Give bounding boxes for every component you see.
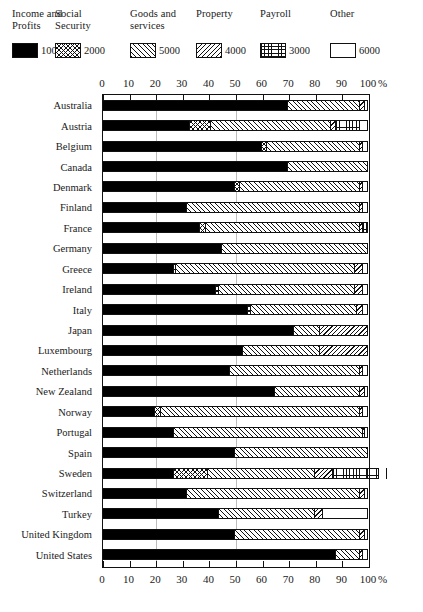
bar-row[interactable]	[102, 263, 368, 274]
bar-segment-property[interactable]	[320, 325, 368, 336]
bar-row[interactable]	[102, 468, 368, 479]
bar-segment-goods[interactable]	[174, 427, 363, 438]
bar-segment-goods[interactable]	[336, 549, 360, 560]
bar-segment-goods[interactable]	[206, 222, 360, 233]
bar-segment-income[interactable]	[102, 202, 187, 213]
bar-segment-income[interactable]	[102, 141, 262, 152]
bar-segment-goods[interactable]	[161, 406, 361, 417]
legend-entry-social[interactable]: 2000	[55, 43, 105, 58]
bar-segment-income[interactable]	[102, 427, 174, 438]
bar-segment-other[interactable]	[363, 181, 368, 192]
bar-segment-goods[interactable]	[230, 365, 360, 376]
bar-row[interactable]	[102, 345, 368, 356]
bar-row[interactable]	[102, 222, 368, 233]
bar-segment-goods[interactable]	[208, 468, 314, 479]
bar-segment-income[interactable]	[102, 325, 294, 336]
bar-segment-property[interactable]	[355, 284, 363, 295]
bar-segment-goods[interactable]	[235, 447, 368, 458]
bar-segment-income[interactable]	[102, 468, 174, 479]
bar-row[interactable]	[102, 284, 368, 295]
bar-row[interactable]	[102, 529, 368, 540]
bar-segment-other[interactable]	[379, 468, 387, 479]
bar-segment-income[interactable]	[102, 222, 200, 233]
bar-segment-other[interactable]	[363, 263, 368, 274]
bar-row[interactable]	[102, 141, 368, 152]
bar-segment-other[interactable]	[365, 427, 368, 438]
bar-segment-goods[interactable]	[288, 100, 360, 111]
bar-segment-goods[interactable]	[211, 120, 331, 131]
bar-row[interactable]	[102, 202, 368, 213]
bar-row[interactable]	[102, 386, 368, 397]
bar-segment-other[interactable]	[365, 488, 368, 499]
bar-segment-other[interactable]	[360, 120, 368, 131]
bar-row[interactable]	[102, 161, 368, 172]
bar-segment-property[interactable]	[355, 263, 363, 274]
bar-row[interactable]	[102, 427, 368, 438]
bar-segment-social[interactable]	[174, 468, 209, 479]
bar-segment-other[interactable]	[363, 202, 368, 213]
bar-segment-other[interactable]	[363, 365, 368, 376]
bar-segment-income[interactable]	[102, 529, 235, 540]
bar-segment-goods[interactable]	[219, 284, 355, 295]
bar-segment-goods[interactable]	[187, 202, 360, 213]
bar-segment-property[interactable]	[320, 345, 368, 356]
bar-segment-income[interactable]	[102, 386, 275, 397]
legend-entry-property[interactable]: 4000	[196, 43, 246, 58]
bar-segment-income[interactable]	[102, 284, 216, 295]
bar-segment-payroll[interactable]	[363, 222, 368, 233]
bar-segment-other[interactable]	[363, 549, 368, 560]
bar-segment-social[interactable]	[190, 120, 211, 131]
bar-segment-goods[interactable]	[176, 263, 354, 274]
legend-entry-payroll[interactable]: 3000	[260, 43, 310, 58]
bar-row[interactable]	[102, 243, 368, 254]
bar-segment-goods[interactable]	[243, 345, 320, 356]
bar-row[interactable]	[102, 447, 368, 458]
bar-row[interactable]	[102, 488, 368, 499]
bar-row[interactable]	[102, 406, 368, 417]
bar-segment-other[interactable]	[363, 284, 368, 295]
bar-segment-property[interactable]	[315, 508, 323, 519]
bar-segment-other[interactable]	[365, 100, 368, 111]
bar-row[interactable]	[102, 100, 368, 111]
bar-segment-payroll[interactable]	[336, 120, 360, 131]
bar-segment-other[interactable]	[363, 304, 368, 315]
bar-segment-income[interactable]	[102, 181, 235, 192]
bar-segment-other[interactable]	[363, 406, 368, 417]
bar-segment-goods[interactable]	[267, 141, 360, 152]
bar-segment-income[interactable]	[102, 304, 248, 315]
bar-segment-other[interactable]	[365, 529, 368, 540]
bar-segment-goods[interactable]	[275, 386, 360, 397]
bar-segment-goods[interactable]	[288, 161, 368, 172]
bar-segment-income[interactable]	[102, 365, 230, 376]
bar-segment-income[interactable]	[102, 161, 288, 172]
bar-segment-income[interactable]	[102, 345, 243, 356]
legend-entry-goods[interactable]: 5000	[130, 43, 180, 58]
bar-segment-payroll[interactable]	[333, 468, 378, 479]
bar-segment-goods[interactable]	[187, 488, 360, 499]
bar-segment-goods[interactable]	[240, 181, 360, 192]
bar-row[interactable]	[102, 508, 368, 519]
bar-segment-income[interactable]	[102, 406, 155, 417]
bar-segment-income[interactable]	[102, 120, 190, 131]
legend-entry-other[interactable]: 6000	[330, 43, 380, 58]
bar-segment-income[interactable]	[102, 100, 288, 111]
bar-row[interactable]	[102, 304, 368, 315]
bar-segment-other[interactable]	[363, 141, 368, 152]
bar-segment-other[interactable]	[365, 386, 368, 397]
bar-segment-income[interactable]	[102, 508, 219, 519]
bar-segment-goods[interactable]	[219, 508, 315, 519]
bar-segment-income[interactable]	[102, 488, 187, 499]
bar-row[interactable]	[102, 365, 368, 376]
bar-segment-income[interactable]	[102, 447, 235, 458]
bar-row[interactable]	[102, 181, 368, 192]
bar-row[interactable]	[102, 325, 368, 336]
bar-segment-goods[interactable]	[222, 243, 368, 254]
bar-segment-income[interactable]	[102, 243, 222, 254]
bar-segment-goods[interactable]	[294, 325, 321, 336]
bar-segment-goods[interactable]	[235, 529, 360, 540]
bar-segment-property[interactable]	[315, 468, 334, 479]
bar-segment-other[interactable]	[323, 508, 368, 519]
bar-segment-income[interactable]	[102, 549, 336, 560]
bar-row[interactable]	[102, 549, 368, 560]
bar-segment-goods[interactable]	[251, 304, 357, 315]
